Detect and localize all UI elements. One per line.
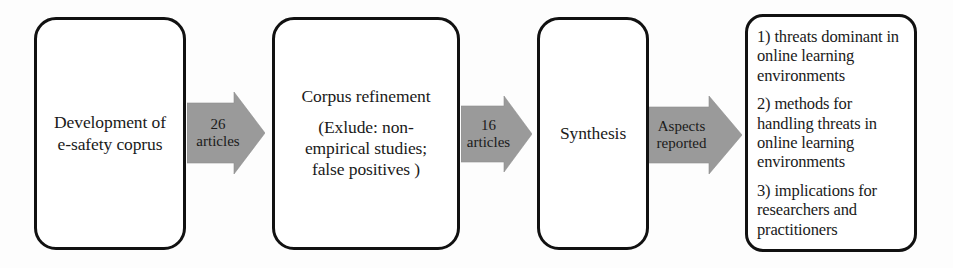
connector-arrow-aspects-reported: Aspects reported — [649, 96, 742, 174]
process-box-corpus-refinement-title: Corpus refinement — [301, 86, 430, 107]
process-flow-diagram: Development of e-safety coprus 26 articl… — [0, 0, 953, 268]
outcome-item-3: 3) implications for researchers and prac… — [757, 181, 906, 239]
process-box-development-line-1: Development of — [54, 112, 166, 133]
connector-arrow-16-articles: 16 articles — [461, 96, 532, 172]
connector-arrow-26-articles: 26 articles — [187, 92, 265, 174]
outcomes-list: 1) threats dominant in online learning e… — [748, 27, 914, 240]
process-box-outcomes: 1) threats dominant in online learning e… — [745, 14, 917, 252]
outcome-item-1: 1) threats dominant in online learning e… — [757, 27, 906, 85]
process-box-corpus-refinement-detail-1: (Exlude: non- — [318, 117, 413, 138]
process-box-development-line-2: e-safety coprus — [58, 134, 163, 155]
process-box-synthesis: Synthesis — [537, 17, 649, 250]
process-box-synthesis-title: Synthesis — [560, 123, 626, 144]
process-box-corpus-refinement-detail-3: false positives ) — [312, 159, 420, 180]
process-box-corpus-refinement-detail-2: empirical studies; — [305, 138, 427, 159]
outcome-item-2: 2) methods for handling threats in onlin… — [757, 94, 906, 172]
process-box-corpus-refinement: Corpus refinement (Exlude: non- empirica… — [272, 17, 460, 250]
process-box-development: Development of e-safety coprus — [34, 17, 186, 250]
